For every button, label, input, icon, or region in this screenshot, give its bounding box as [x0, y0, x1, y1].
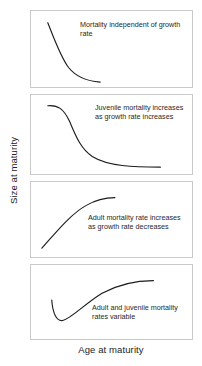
y-axis-label-text: Size at maturity: [9, 136, 20, 203]
panel-4-caption: Adult and juvenile mortality rates varia…: [92, 303, 188, 322]
panel-2-caption: Juvenile mortality increases as growth r…: [95, 103, 191, 122]
x-axis-label: Age at maturity: [28, 344, 194, 355]
panel-1-caption: Mortality independent of growth rate: [80, 20, 190, 39]
y-axis-label: Size at maturity: [0, 0, 28, 340]
panel-3: Adult mortality rate increases as growth…: [30, 181, 193, 258]
panel-2: Juvenile mortality increases as growth r…: [30, 94, 193, 175]
panel-stack: Mortality independent of growth rate Juv…: [30, 10, 193, 340]
panel-4: Adult and juvenile mortality rates varia…: [30, 264, 193, 340]
panel-3-caption: Adult mortality rate increases as growth…: [88, 213, 188, 232]
x-axis-label-text: Age at maturity: [78, 344, 143, 355]
figure-container: Size at maturity Mortality independent o…: [0, 0, 202, 366]
panel-1: Mortality independent of growth rate: [30, 10, 193, 88]
panel-4-curve: [31, 265, 192, 339]
